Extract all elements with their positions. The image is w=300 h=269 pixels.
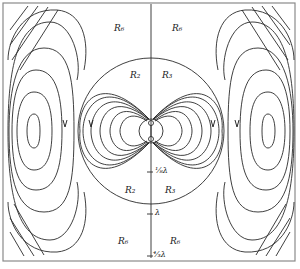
tick-label-lambda: λ — [155, 209, 160, 217]
label-r2-top: R₂ — [130, 71, 140, 80]
tick-label-eighth-lambda: ¹⁄₈λ — [155, 167, 168, 175]
label-r6-bottom-left: R₆ — [118, 237, 128, 246]
label-r6-top-left: R₆ — [114, 24, 124, 33]
label-r3-bottom: R₃ — [165, 186, 175, 195]
field-lines — [8, 4, 294, 258]
dipole-field-diagram — [0, 0, 300, 269]
label-r3-top: R₃ — [162, 71, 172, 80]
tick-label-four-thirds-lambda: ⁴⁄₃λ — [153, 251, 166, 259]
label-r2-bottom: R₂ — [125, 186, 135, 195]
label-r6-bottom-right: R₆ — [170, 237, 180, 246]
label-r6-top-right: R₆ — [172, 24, 182, 33]
figure-frame — [3, 3, 295, 261]
